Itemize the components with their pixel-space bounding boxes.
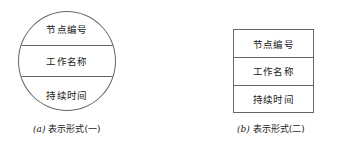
circle-band-duration: 持续时间 (19, 77, 115, 111)
caption-tag-a: (a) (33, 124, 45, 134)
rect-duration-label: 持续时间 (253, 92, 295, 106)
rect-activity-name-label: 工作名称 (253, 64, 295, 78)
caption-form-b: (b) 表示形式(二) (237, 122, 305, 135)
rect-node-number-label: 节点编号 (253, 37, 295, 51)
caption-text-b: 表示形式(二) (253, 122, 305, 135)
rectangle-node-diagram: 节点编号 工作名称 持续时间 (233, 29, 314, 113)
circle-duration-label: 持续时间 (46, 88, 88, 102)
rect-row-activity-name: 工作名称 (234, 57, 313, 84)
rect-row-duration: 持续时间 (234, 85, 313, 112)
rect-row-node-number: 节点编号 (234, 30, 313, 57)
figure-canvas: 节点编号 工作名称 持续时间 节点编号 工作名称 持续时间 (a) 表示形式(一… (0, 0, 346, 150)
caption-form-a: (a) 表示形式(一) (33, 122, 100, 135)
circle-band-node-number: 节点编号 (19, 12, 115, 45)
caption-tag-b: (b) (237, 124, 250, 134)
circle-activity-name-label: 工作名称 (46, 54, 88, 68)
caption-text-a: 表示形式(一) (48, 122, 100, 135)
circle-node-diagram: 节点编号 工作名称 持续时间 (18, 11, 116, 111)
circle-band-activity-name: 工作名称 (19, 45, 115, 77)
circle-node-number-label: 节点编号 (46, 22, 88, 36)
